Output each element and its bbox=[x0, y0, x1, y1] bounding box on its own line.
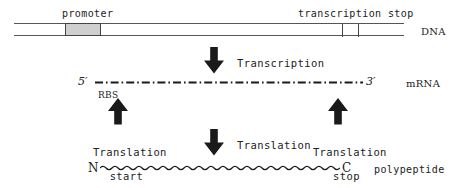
transcription-step-label: Transcription bbox=[237, 57, 324, 69]
translation-start-label: Translation start bbox=[66, 134, 160, 188]
promoter-box bbox=[65, 23, 101, 36]
transcription-stop-tick-1 bbox=[342, 24, 343, 37]
mrna-strand bbox=[95, 81, 363, 84]
dna-strand bbox=[14, 23, 404, 36]
translation-stop-label-line1: Translation bbox=[313, 146, 387, 158]
translation-down-arrow-icon bbox=[203, 129, 225, 156]
polypeptide-c-terminus-label: C bbox=[342, 162, 351, 176]
mrna-five-prime-label: 5′ bbox=[78, 76, 88, 89]
polypeptide-molecule-label: polypeptide bbox=[374, 164, 445, 176]
promoter-label: promoter bbox=[62, 8, 113, 20]
dna-molecule-label: DNA bbox=[421, 26, 446, 38]
translation-start-up-arrow-icon bbox=[107, 98, 129, 125]
transcription-stop-tick-2 bbox=[358, 24, 359, 37]
mrna-three-prime-label: 3′ bbox=[366, 76, 376, 89]
transcription-down-arrow-icon bbox=[203, 47, 225, 74]
translation-stop-up-arrow-icon bbox=[327, 98, 349, 125]
polypeptide-chain bbox=[100, 163, 340, 173]
transcription-stop-label: transcription stop bbox=[298, 8, 414, 20]
polypeptide-n-terminus-label: N bbox=[88, 162, 99, 176]
mrna-molecule-label: mRNA bbox=[406, 78, 440, 90]
translation-step-label: Translation bbox=[237, 139, 311, 151]
gene-expression-diagram: promoter transcription stop DNA Transcri… bbox=[0, 0, 464, 188]
translation-start-label-line1: Translation bbox=[93, 146, 167, 158]
